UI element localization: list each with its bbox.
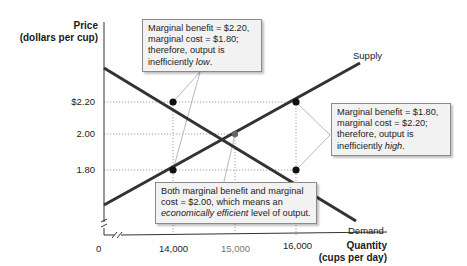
supply-label: Supply: [353, 50, 382, 61]
x-axis-title-line1: Quantity: [319, 240, 387, 252]
callout-efficient-line2: cost = $2.00, which means an: [161, 197, 311, 208]
callout-inefficiently-high: Marginal benefit = $1.80, marginal cost …: [331, 103, 451, 156]
callout-leaders: [173, 72, 330, 190]
x-axis-title: Quantity (cups per day): [319, 240, 387, 264]
y-axis-title-line1: Price: [20, 20, 98, 32]
y-axis-break-icon: [101, 219, 107, 227]
y-tick-2-20: $2.20: [71, 96, 95, 107]
x-tick-15000: 15,000: [221, 243, 250, 254]
data-points: [169, 98, 299, 173]
y-tick-2-00: 2.00: [77, 128, 96, 139]
x-tick-16000: 16,000: [283, 240, 312, 251]
callout-inefficiently-low: Marginal benefit = $2.20, marginal cost …: [142, 19, 262, 72]
x-tick-14000: 14,000: [159, 243, 188, 254]
callout-high-line2: marginal cost = $2.20;: [337, 118, 445, 129]
callout-low-line4: inefficiently low.: [148, 57, 256, 68]
callout-high-line3: therefore, output is: [337, 129, 445, 140]
demand-label: Demand: [348, 225, 384, 236]
y-axis-title: Price (dollars per cup): [20, 20, 98, 44]
callout-efficient-line1: Both marginal benefit and marginal: [161, 186, 311, 197]
callout-efficient: Both marginal benefit and marginal cost …: [155, 182, 317, 224]
callout-efficient-line3: economically efficient level of output.: [161, 208, 311, 219]
x-axis-title-line2: (cups per day): [319, 252, 387, 264]
x-tick-origin: 0: [96, 243, 101, 254]
callout-high-line4: inefficiently high.: [337, 141, 445, 152]
callout-high-line1: Marginal benefit = $1.80,: [337, 107, 445, 118]
y-tick-1-80: 1.80: [77, 164, 96, 175]
callout-low-line3: therefore, output is: [148, 45, 256, 56]
callout-low-line1: Marginal benefit = $2.20,: [148, 23, 256, 34]
y-axis-title-line2: (dollars per cup): [20, 32, 98, 44]
callout-low-line2: marginal cost = $1.80;: [148, 34, 256, 45]
